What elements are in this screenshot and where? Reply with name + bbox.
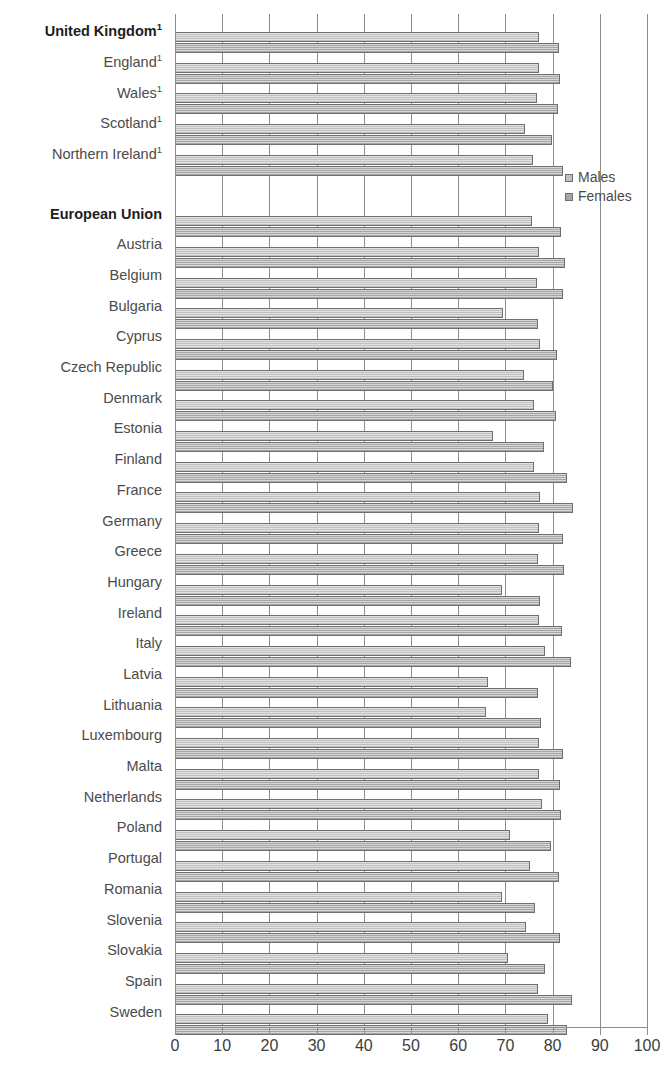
x-tick-label: 100	[634, 1038, 661, 1054]
bar-females	[175, 104, 558, 114]
x-tick-label: 60	[449, 1038, 467, 1054]
bar-males	[175, 984, 538, 994]
bar-females	[175, 810, 561, 820]
bar-females	[175, 74, 560, 84]
bar-males	[175, 922, 526, 932]
bar-females	[175, 166, 563, 176]
bar-females	[175, 411, 556, 421]
bar-males	[175, 799, 542, 809]
bar-females	[175, 626, 562, 636]
bar-males	[175, 308, 503, 318]
footnote-marker: 1	[157, 21, 162, 32]
bar-females	[175, 534, 563, 544]
bar-males	[175, 677, 488, 687]
x-tick-mark	[505, 1028, 506, 1035]
bar-males	[175, 370, 524, 380]
category-label: Wales1	[117, 84, 162, 100]
bar-females	[175, 565, 564, 575]
category-label: European Union	[50, 207, 162, 222]
legend-item-males: Males	[565, 168, 632, 187]
bar-males	[175, 93, 537, 103]
category-label: Germany	[102, 514, 162, 529]
chart-page: United Kingdom1England1Wales1Scotland1No…	[0, 0, 668, 1069]
bar-males	[175, 585, 502, 595]
category-label: Netherlands	[84, 790, 162, 805]
bar-females	[175, 473, 567, 483]
category-label: Greece	[114, 544, 162, 559]
category-label: France	[117, 483, 162, 498]
x-tick-label: 0	[171, 1038, 180, 1054]
bar-males	[175, 216, 532, 226]
chart-legend: Males Females	[565, 168, 632, 206]
category-label: Bulgaria	[109, 299, 162, 314]
x-tick-mark	[458, 1028, 459, 1035]
x-tick-mark	[647, 1028, 648, 1035]
x-tick-mark	[317, 1028, 318, 1035]
category-label: Estonia	[114, 421, 162, 436]
gridline-90	[600, 14, 601, 1027]
bar-females	[175, 43, 559, 53]
bar-females	[175, 227, 561, 237]
category-label: England1	[103, 53, 162, 69]
category-label: Sweden	[110, 1005, 162, 1020]
category-label: Slovenia	[106, 913, 162, 928]
category-label: Czech Republic	[60, 360, 162, 375]
category-label: Austria	[117, 237, 162, 252]
bar-females	[175, 780, 560, 790]
footnote-marker: 1	[157, 113, 162, 124]
legend-label-females: Females	[578, 187, 632, 206]
bar-females	[175, 319, 538, 329]
bar-males	[175, 523, 539, 533]
bar-males	[175, 431, 493, 441]
category-label: Luxembourg	[81, 728, 162, 743]
category-label: Latvia	[123, 667, 162, 682]
footnote-marker: 1	[157, 144, 162, 155]
bar-females	[175, 657, 571, 667]
x-tick-label: 20	[260, 1038, 278, 1054]
bar-females	[175, 872, 559, 882]
plot-area	[175, 14, 648, 1027]
bar-females	[175, 933, 560, 943]
category-label: Ireland	[118, 606, 162, 621]
bar-females	[175, 442, 544, 452]
bar-females	[175, 350, 557, 360]
bar-males	[175, 1014, 548, 1024]
x-tick-mark	[364, 1028, 365, 1035]
category-label: Spain	[125, 974, 162, 989]
bar-males	[175, 247, 539, 257]
category-label-column: United Kingdom1England1Wales1Scotland1No…	[0, 0, 168, 1030]
category-label: Lithuania	[103, 698, 162, 713]
bar-males	[175, 462, 534, 472]
x-tick-label: 50	[402, 1038, 420, 1054]
bar-males	[175, 646, 545, 656]
bar-females	[175, 688, 538, 698]
bar-chart: United Kingdom1England1Wales1Scotland1No…	[0, 0, 668, 1030]
y-axis-line	[175, 14, 176, 1027]
x-tick-label: 90	[591, 1038, 609, 1054]
category-label: Italy	[135, 636, 162, 651]
bar-males	[175, 769, 539, 779]
bar-females	[175, 135, 552, 145]
footnote-marker: 1	[157, 52, 162, 63]
x-tick-label: 40	[355, 1038, 373, 1054]
bar-males	[175, 861, 530, 871]
legend-swatch-females-icon	[565, 193, 573, 201]
category-label: Romania	[104, 882, 162, 897]
bar-females	[175, 718, 541, 728]
bar-females	[175, 289, 563, 299]
bar-females	[175, 596, 540, 606]
bar-females	[175, 258, 565, 268]
category-label: Poland	[117, 820, 162, 835]
bar-females	[175, 841, 551, 851]
bar-males	[175, 63, 539, 73]
x-tick-mark	[175, 1028, 176, 1035]
bar-males	[175, 554, 538, 564]
bar-males	[175, 155, 533, 165]
category-label: Portugal	[108, 851, 162, 866]
bar-males	[175, 953, 508, 963]
category-label: Malta	[127, 759, 162, 774]
bar-males	[175, 339, 540, 349]
bar-males	[175, 707, 486, 717]
category-label: Northern Ireland1	[52, 145, 162, 161]
x-tick-mark	[222, 1028, 223, 1035]
